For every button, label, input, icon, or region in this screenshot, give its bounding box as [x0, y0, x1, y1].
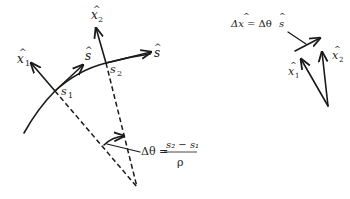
label-x1-hat: ^ x 1	[17, 47, 30, 68]
s-hat-arrow-s2-icon	[106, 52, 151, 63]
radius-line-s2	[106, 63, 137, 187]
delta-x-equation: ^ Δx = Δθ ^ s	[230, 11, 286, 29]
svg-text:= Δθ: = Δθ	[247, 18, 272, 29]
right-label-x2-hat: ^ x 2	[332, 44, 343, 64]
label-s-hat-1: ^ s	[85, 45, 93, 63]
svg-text:Δθ =: Δθ =	[141, 145, 168, 158]
svg-text:Δx: Δx	[230, 18, 244, 29]
svg-text:x: x	[332, 49, 339, 62]
curve-frame-rotation-diagram: ^ x 1 ^ s ^ x 2 ^ s s 1 s 2 Δθ = s₂ − s₁…	[0, 0, 350, 199]
svg-text:s₂ − s₁: s₂ − s₁	[166, 139, 199, 150]
label-s2: s 2	[110, 63, 122, 78]
svg-text:x: x	[17, 52, 24, 66]
svg-text:2: 2	[98, 15, 103, 24]
svg-text:2: 2	[339, 56, 343, 64]
delta-x-pointer-line	[288, 32, 306, 44]
svg-text:s: s	[110, 63, 116, 76]
svg-text:s: s	[154, 46, 160, 60]
label-s-hat-2: ^ s	[154, 42, 162, 60]
angle-pointer-line	[107, 144, 140, 152]
svg-text:ρ: ρ	[177, 156, 183, 169]
svg-text:s: s	[85, 49, 91, 63]
svg-text:2: 2	[117, 69, 122, 78]
svg-text:x: x	[288, 65, 295, 78]
curve-path	[24, 54, 150, 133]
label-x2-hat: ^ x 2	[91, 4, 103, 24]
x2-arrow-icon	[96, 28, 106, 63]
svg-text:x: x	[91, 8, 98, 22]
svg-text:s: s	[279, 18, 284, 29]
angle-equation: Δθ = s₂ − s₁ ρ	[141, 139, 199, 169]
right-label-x1-hat: ^ x 1	[288, 60, 299, 80]
x1-arrow-icon	[31, 63, 55, 91]
s-hat-arrow-s1-icon	[55, 65, 83, 91]
svg-text:1: 1	[25, 59, 30, 68]
delta-x-arrow-icon	[295, 38, 320, 51]
label-s1: s 1	[61, 85, 73, 100]
svg-text:s: s	[61, 85, 67, 98]
svg-text:1: 1	[68, 91, 73, 100]
radius-line-s1	[55, 91, 137, 187]
svg-text:1: 1	[295, 72, 299, 80]
